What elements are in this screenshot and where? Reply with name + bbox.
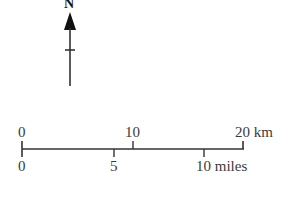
scale-mile-label-5: 5 [110, 159, 118, 174]
scale-mile-label-0: 0 [18, 159, 26, 174]
scale-mile-label-10: 10 miles [196, 159, 247, 174]
scale-bar-line [0, 138, 299, 162]
scale-km-label-10: 10 [125, 125, 140, 140]
scale-km-label-20: 20 km [235, 125, 273, 140]
north-arrow-icon [60, 10, 80, 90]
scale-km-label-0: 0 [18, 125, 26, 140]
